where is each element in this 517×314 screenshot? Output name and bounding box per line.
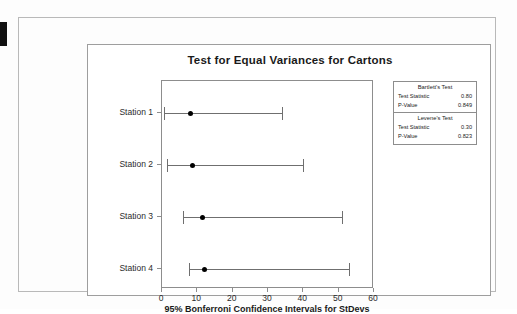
- x-axis-tick: [232, 288, 233, 292]
- x-axis-tick-label: 30: [262, 293, 271, 303]
- x-axis-tick: [373, 288, 374, 292]
- x-axis-tick-label: 40: [298, 293, 307, 303]
- interval-line: [167, 165, 303, 166]
- interval-cap-upper: [282, 107, 283, 120]
- y-axis-tick: [157, 268, 161, 269]
- y-axis-tick: [157, 216, 161, 217]
- x-axis-tick: [302, 288, 303, 292]
- y-axis-label-station-1: Station 1: [88, 107, 153, 117]
- stats-row: P-Value0.849: [394, 101, 476, 110]
- interval-point-estimate: [190, 163, 195, 168]
- y-axis-tick: [157, 164, 161, 165]
- stats-block-title: Bartlett's Test: [394, 84, 476, 92]
- stats-row-value: 0.80: [461, 92, 472, 101]
- x-axis-tick: [161, 288, 162, 292]
- stats-row-value: 0.823: [458, 132, 472, 141]
- plot-inner: [162, 81, 372, 287]
- x-axis-tick-label: 50: [333, 293, 342, 303]
- y-axis-label-station-4: Station 4: [88, 263, 153, 273]
- y-axis-label-station-3: Station 3: [88, 211, 153, 221]
- interval-cap-upper: [303, 159, 304, 172]
- stats-block: Levene's TestTest Statistic0.30P-Value0.…: [394, 112, 476, 143]
- stats-row-value: 0.849: [458, 101, 472, 110]
- x-axis-tick-label: 20: [227, 293, 236, 303]
- x-axis-tick-label: 60: [368, 293, 377, 303]
- stats-row-label: P-Value: [398, 101, 418, 110]
- interval-point-estimate: [188, 111, 193, 116]
- interval-cap-lower: [164, 107, 165, 120]
- interval-cap-lower: [183, 211, 184, 224]
- x-axis-tick-label: 0: [159, 293, 164, 303]
- stats-row: Test Statistic0.30: [394, 123, 476, 132]
- x-axis-tick: [267, 288, 268, 292]
- stats-row: Test Statistic0.80: [394, 92, 476, 101]
- x-axis-tick-label: 10: [192, 293, 201, 303]
- edge-marker: [0, 22, 7, 46]
- interval-line: [164, 113, 282, 114]
- y-axis-tick: [157, 112, 161, 113]
- stats-row-label: Test Statistic: [398, 92, 429, 101]
- interval-cap-lower: [167, 159, 168, 172]
- interval-cap-lower: [189, 263, 190, 276]
- interval-point-estimate: [200, 215, 205, 220]
- interval-cap-upper: [342, 211, 343, 224]
- stats-row: P-Value0.823: [394, 132, 476, 141]
- stats-row-value: 0.30: [461, 123, 472, 132]
- interval-point-estimate: [202, 267, 207, 272]
- stats-row-label: P-Value: [398, 132, 418, 141]
- x-axis-tick: [196, 288, 197, 292]
- statistics-panel: Bartlett's TestTest Statistic0.80P-Value…: [393, 81, 477, 145]
- chart-title: Test for Equal Variances for Cartons: [88, 54, 492, 66]
- interval-cap-upper: [349, 263, 350, 276]
- x-axis-title: 95% Bonferroni Confidence Intervals for …: [161, 304, 373, 314]
- stats-block-title: Levene's Test: [394, 115, 476, 123]
- stats-row-label: Test Statistic: [398, 123, 429, 132]
- stats-block: Bartlett's TestTest Statistic0.80P-Value…: [394, 82, 476, 112]
- plot-area: [161, 80, 373, 288]
- graph-window: Test for Equal Variances for Cartons Sta…: [87, 44, 491, 296]
- document-frame: Test for Equal Variances for Cartons Sta…: [18, 17, 496, 292]
- y-axis-label-station-2: Station 2: [88, 159, 153, 169]
- x-axis-tick: [338, 288, 339, 292]
- interval-line: [183, 217, 342, 218]
- interval-line: [189, 269, 350, 270]
